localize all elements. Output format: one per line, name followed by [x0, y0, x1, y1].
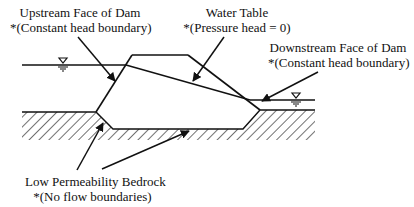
- water-table-note: *(Pressure head = 0): [182, 20, 292, 35]
- label-bedrock: Low Permeability Bedrock *(No flow bound…: [25, 174, 160, 204]
- water-table-line: [126, 65, 250, 100]
- upstream-face-title: Upstream Face of Dam: [10, 5, 150, 20]
- downstream-face: [188, 55, 260, 110]
- arrow-upstream-face: [78, 37, 115, 81]
- water-table-title: Water Table: [182, 5, 292, 20]
- label-upstream-face: Upstream Face of Dam *(Constant head bou…: [10, 5, 150, 35]
- arrow-water-table: [193, 37, 224, 81]
- label-downstream-face: Downstream Face of Dam *(Constant head b…: [268, 40, 408, 70]
- downstream-face-note: *(Constant head boundary): [268, 55, 408, 70]
- label-water-table: Water Table *(Pressure head = 0): [182, 5, 292, 35]
- bedrock: [22, 110, 315, 140]
- upstream-face: [96, 55, 132, 112]
- downstream-water: [250, 93, 315, 106]
- arrow-downstream-face: [262, 72, 318, 101]
- downstream-face-title: Downstream Face of Dam: [268, 40, 408, 55]
- bedrock-note: *(No flow boundaries): [25, 189, 160, 204]
- dam-body: [96, 55, 260, 112]
- bedrock-title: Low Permeability Bedrock: [25, 174, 160, 189]
- upstream-face-note: *(Constant head boundary): [10, 20, 150, 35]
- upstream-water: [22, 58, 126, 71]
